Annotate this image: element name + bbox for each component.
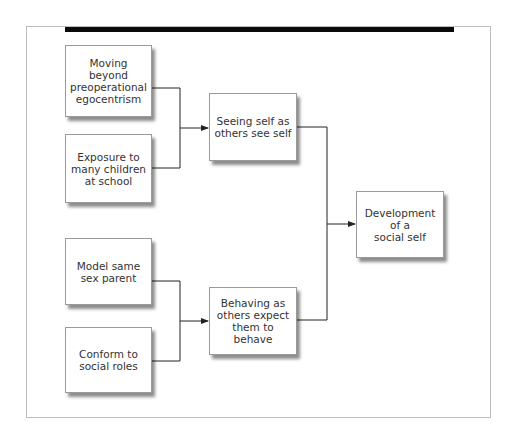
node-label: Seeing self as others see self [214,115,291,139]
node-label: Moving beyond preoperational egocentrism [70,57,147,105]
node-label: Conform to social roles [79,348,138,372]
node-seeing-self: Seeing self as others see self [209,93,297,161]
node-exposure-to-children: Exposure to many children at school [65,134,152,203]
node-moving-beyond-egocentrism: Moving beyond preoperational egocentrism [65,45,152,117]
node-label: Model same sex parent [77,260,140,284]
node-model-same-sex-parent: Model same sex parent [65,238,152,305]
node-label: Exposure to many children at school [71,151,146,187]
node-development-social-self: Development of a social self [356,191,444,258]
node-label: Development of a social self [365,207,436,243]
node-label: Behaving as others expect them to behave [214,297,292,345]
node-behaving-as-expected: Behaving as others expect them to behave [209,287,297,355]
node-conform-social-roles: Conform to social roles [65,327,152,393]
